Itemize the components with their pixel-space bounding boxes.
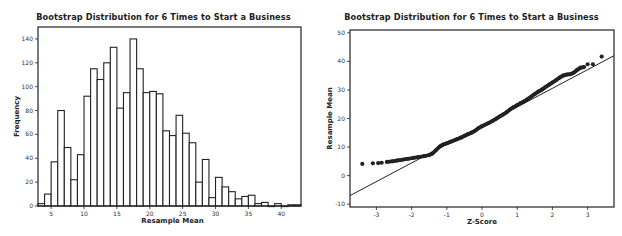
x-tick-label: 30: [212, 210, 220, 217]
histogram-bar: [235, 199, 242, 206]
y-tick-label: 100: [22, 83, 34, 90]
x-tick-label: 3: [586, 211, 590, 218]
histogram-bar: [137, 69, 144, 206]
y-tick-label: 10: [337, 143, 345, 150]
y-axis: -1001020304050: [335, 29, 350, 207]
histogram-bar: [176, 115, 183, 206]
y-tick-label: 50: [337, 29, 345, 36]
histogram-bar: [84, 96, 91, 206]
x-tick-label: 1: [515, 211, 519, 218]
x-axis-label: Resample Mean: [141, 217, 203, 225]
data-point: [582, 65, 586, 69]
y-tick-label: 20: [337, 115, 345, 122]
data-point: [380, 161, 384, 165]
histogram-bar: [91, 69, 98, 206]
histogram-bar: [222, 187, 229, 206]
histogram-bar: [117, 108, 124, 206]
x-axis-label: Z-Score: [467, 218, 497, 226]
histogram-bar: [163, 131, 170, 206]
x-tick-label: 5: [49, 210, 53, 217]
histogram-bar: [58, 111, 65, 206]
histogram-bar: [130, 39, 137, 206]
y-tick-label: 40: [337, 57, 345, 64]
x-tick-label: -2: [409, 211, 415, 218]
histogram-bar: [216, 177, 223, 206]
y-tick-label: 0: [29, 202, 33, 209]
x-tick-label: 20: [146, 210, 154, 217]
y-tick-label: 140: [22, 35, 34, 42]
y-tick-label: 20: [25, 178, 33, 185]
data-point: [591, 62, 595, 66]
histogram-bar: [248, 195, 255, 206]
y-tick-label: 0: [341, 172, 345, 179]
histogram-bar: [77, 155, 84, 206]
y-tick-label: 60: [25, 130, 33, 137]
histogram-bar: [71, 180, 78, 206]
y-tick-label: 120: [22, 59, 34, 66]
histogram-bars: [38, 39, 301, 207]
histogram-panel: Bootstrap Distribution for 6 Times to St…: [0, 0, 311, 236]
histogram-bar: [202, 159, 209, 206]
histogram-bar: [196, 182, 203, 206]
histogram-bar: [209, 198, 216, 206]
data-point: [600, 54, 604, 58]
y-axis-label: Resample Mean: [326, 87, 334, 149]
y-tick-label: -10: [335, 200, 345, 207]
histogram-chart: 020406080100120140510152025303540Resampl…: [0, 0, 311, 236]
histogram-bar: [51, 162, 58, 206]
x-tick-label: 25: [179, 210, 187, 217]
y-axis: 020406080100120140: [22, 35, 38, 209]
histogram-bar: [97, 80, 104, 206]
histogram-bar: [123, 93, 130, 206]
x-tick-label: 0: [480, 211, 484, 218]
histogram-bar: [242, 196, 249, 206]
data-points: [360, 54, 604, 166]
x-axis: -3-2-10123: [373, 207, 589, 218]
x-axis: 510152025303540: [49, 206, 285, 217]
x-tick-label: 10: [80, 210, 88, 217]
histogram-bar: [229, 192, 236, 206]
qq-plot-panel: Bootstrap Distribution for 6 Times to St…: [311, 0, 622, 236]
histogram-bar: [189, 143, 196, 206]
x-tick-label: 2: [550, 211, 554, 218]
histogram-bar: [64, 148, 71, 206]
data-point: [586, 62, 590, 66]
histogram-bar: [170, 136, 177, 206]
x-tick-label: -1: [444, 211, 450, 218]
y-tick-label: 80: [25, 107, 33, 114]
data-point: [360, 162, 364, 166]
histogram-bar: [110, 47, 117, 206]
x-tick-label: -3: [373, 211, 379, 218]
plot-frame: [350, 30, 614, 207]
y-tick-label: 40: [25, 154, 33, 161]
x-tick-label: 40: [277, 210, 285, 217]
histogram-bar: [143, 93, 150, 206]
histogram-bar: [183, 133, 190, 206]
histogram-bar: [104, 63, 111, 206]
histogram-bar: [156, 94, 163, 206]
x-tick-label: 15: [113, 210, 121, 217]
x-tick-label: 35: [245, 210, 253, 217]
y-axis-label: Frequency: [13, 96, 21, 137]
data-point: [371, 161, 375, 165]
qq-plot-chart: -1001020304050-3-2-10123Z-ScoreResample …: [311, 0, 622, 236]
histogram-bar: [150, 91, 157, 206]
y-tick-label: 30: [337, 86, 345, 93]
histogram-bar: [45, 194, 52, 206]
